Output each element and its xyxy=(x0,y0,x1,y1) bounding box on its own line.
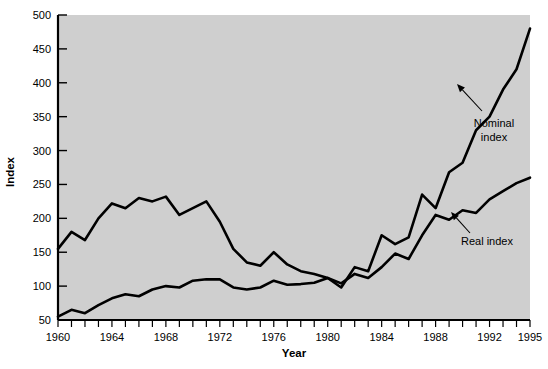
x-axis-title: Year xyxy=(282,347,307,359)
y-axis-title: Index xyxy=(4,156,16,187)
plot-area-background xyxy=(58,15,530,320)
y-tick-label: 50 xyxy=(39,314,51,326)
x-tick-label: 1980 xyxy=(315,331,339,343)
y-tick-label: 400 xyxy=(33,77,51,89)
x-tick-label: 1972 xyxy=(208,331,232,343)
y-tick-label: 350 xyxy=(33,111,51,123)
x-tick-label: 1992 xyxy=(477,331,501,343)
y-tick-label: 250 xyxy=(33,178,51,190)
y-tick-label: 150 xyxy=(33,246,51,258)
x-tick-label: 1964 xyxy=(100,331,124,343)
x-tick-label: 1960 xyxy=(46,331,70,343)
y-tick-label: 450 xyxy=(33,43,51,55)
x-tick-label: 1968 xyxy=(154,331,178,343)
y-tick-label: 300 xyxy=(33,145,51,157)
x-tick-label: 1988 xyxy=(423,331,447,343)
chart-figure: 50100150200250300350400450500 1960196419… xyxy=(0,0,548,369)
x-tick-label: 1976 xyxy=(262,331,286,343)
y-tick-label: 500 xyxy=(33,9,51,21)
y-tick-label: 100 xyxy=(33,280,51,292)
real-index-annotation-label: Real index xyxy=(461,235,513,247)
index-line-chart: 50100150200250300350400450500 1960196419… xyxy=(0,0,548,369)
y-tick-label: 200 xyxy=(33,212,51,224)
x-tick-label: 1984 xyxy=(369,331,393,343)
x-tick-label: 1995 xyxy=(518,331,542,343)
